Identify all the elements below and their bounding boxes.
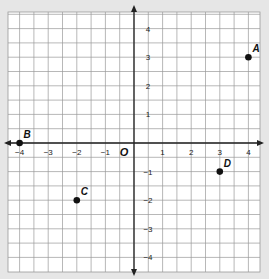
point-marker-icon [217,168,224,175]
point-marker-icon [16,140,23,147]
point-label: C [81,186,89,197]
y-tick-label: −3 [143,225,153,234]
y-axis-arrow-down-icon [131,269,137,276]
x-axis-arrow-left-icon [4,140,11,146]
y-tick-label: −2 [143,196,153,205]
point-marker-icon [74,197,81,204]
point-label: A [251,43,259,54]
x-tick-label: −4 [15,148,25,157]
y-tick-label: 4 [146,25,151,34]
x-tick-label: 1 [160,148,165,157]
y-tick-label: 1 [146,110,151,119]
x-tick-label: −1 [101,148,111,157]
x-tick-label: −2 [72,148,82,157]
point-marker-icon [245,54,252,61]
x-axis-arrow-right-icon [257,140,264,146]
coordinate-plane: −4−3−2−112344321−1−2−3−4 O ABCD [0,0,269,279]
x-tick-label: −3 [44,148,54,157]
y-axis-arrow-up-icon [131,5,137,12]
y-tick-label: 2 [146,82,151,91]
point-label: D [224,158,231,169]
y-tick-label: −4 [143,253,153,262]
origin-label: O [120,146,129,158]
y-tick-label: 3 [146,53,151,62]
x-tick-label: 2 [189,148,194,157]
point-label: B [24,129,31,140]
x-tick-label: 3 [218,148,223,157]
x-tick-label: 4 [246,148,251,157]
y-tick-label: −1 [143,168,153,177]
